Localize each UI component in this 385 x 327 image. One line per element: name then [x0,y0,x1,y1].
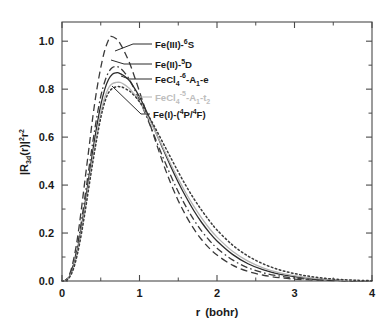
y-tick-label: 0.8 [39,83,54,95]
x-axis-symbol: r [196,306,201,318]
x-tick-label: 2 [214,287,220,299]
radial-distribution-chart: 01234 0.00.20.40.60.81.0 r(bohr) |R3d(r)… [0,0,385,327]
legend-label-fe2-5d: Fe(II)-5D [155,58,192,70]
x-tick-label: 4 [369,287,376,299]
y-tick-label: 0.6 [39,131,54,143]
x-tick-label: 1 [136,287,142,299]
x-axis-unit: (bohr) [205,306,238,318]
y-tick-label: 1.0 [39,35,54,47]
y-tick-label: 0.2 [39,227,54,239]
legend-label-fe1-4p4f: Fe(I)-(4P/4F) [153,108,206,120]
y-tick-label: 0.0 [39,275,54,287]
x-tick-label: 3 [291,287,297,299]
y-tick-label: 0.4 [39,179,55,191]
y-axis-title: |R3d(r)|2r2 [18,129,32,175]
x-tick-label: 0 [59,287,65,299]
legend-label-fe3-6s: Fe(III)-6S [155,38,195,50]
y-axis-title-text: |R3d(r)|2r2 [18,129,32,175]
